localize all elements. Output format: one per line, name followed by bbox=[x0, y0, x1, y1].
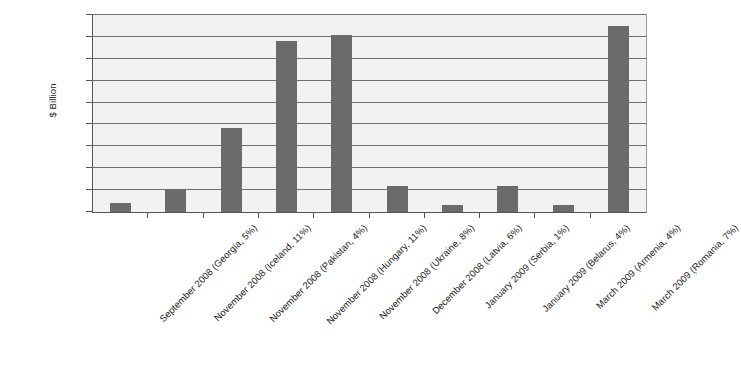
x-axis-label: November 2008 (Hungary, 11%) bbox=[324, 222, 428, 326]
bar bbox=[331, 35, 352, 212]
x-axis-label: December 2008 (Latvia, 6%) bbox=[430, 222, 524, 316]
plot-area bbox=[92, 14, 647, 213]
x-axis-label-text: September 2008 (Georgia, 5%) bbox=[157, 222, 259, 324]
bar bbox=[221, 128, 242, 212]
x-tick-mark bbox=[203, 212, 204, 218]
bar bbox=[608, 26, 629, 212]
gridline bbox=[93, 145, 646, 146]
x-axis-label: November 2008 (Pakistan, 4%) bbox=[267, 222, 369, 324]
bar bbox=[497, 186, 518, 212]
x-tick-mark bbox=[258, 212, 259, 218]
x-axis-label-text: November 2008 (Ukraine, 8%) bbox=[377, 222, 476, 321]
x-tick-mark bbox=[590, 212, 591, 218]
gridline bbox=[93, 167, 646, 168]
bar bbox=[110, 203, 131, 212]
x-tick-mark bbox=[424, 212, 425, 218]
x-tick-mark bbox=[147, 212, 148, 218]
bar bbox=[165, 189, 186, 212]
bar bbox=[276, 41, 297, 212]
x-axis-label: November 2008 (Iceland, 11%) bbox=[212, 222, 313, 323]
x-tick-mark bbox=[369, 212, 370, 218]
x-tick-mark bbox=[479, 212, 480, 218]
x-tick-mark bbox=[313, 212, 314, 218]
x-axis-label-text: November 2008 (Iceland, 11%) bbox=[212, 222, 313, 323]
x-axis-label: November 2008 (Ukraine, 8%) bbox=[377, 222, 476, 321]
bar bbox=[553, 205, 574, 212]
y-axis-title: $ Billion bbox=[47, 31, 58, 171]
gridline bbox=[93, 58, 646, 59]
gridline bbox=[93, 14, 646, 15]
gridline bbox=[93, 36, 646, 37]
x-axis-label-text: November 2008 (Hungary, 11%) bbox=[324, 222, 428, 326]
bar bbox=[442, 205, 463, 212]
x-axis-label-text: December 2008 (Latvia, 6%) bbox=[430, 222, 524, 316]
x-axis-label: September 2008 (Georgia, 5%) bbox=[157, 222, 259, 324]
x-axis-label-text: November 2008 (Pakistan, 4%) bbox=[267, 222, 369, 324]
gridline bbox=[93, 102, 646, 103]
x-tick-mark bbox=[534, 212, 535, 218]
bar bbox=[387, 186, 408, 212]
gridline bbox=[93, 80, 646, 81]
gridline bbox=[93, 123, 646, 124]
